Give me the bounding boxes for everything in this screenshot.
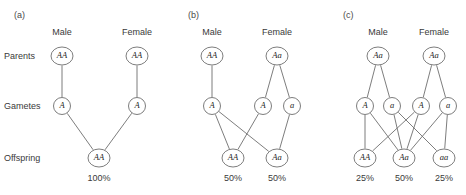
gamete-genotype-g-male-A: A (208, 100, 215, 110)
edge-g-male-A-to-o-AA (215, 114, 229, 149)
edge-p-female-to-g-female-A (265, 65, 274, 97)
sex-label-female: Female (419, 27, 449, 37)
offspring-genotype-o-AA: AA (93, 152, 105, 162)
percentage-label-pct-Aa: 50% (395, 173, 413, 183)
sex-label-female: Female (122, 27, 152, 37)
gamete-genotype-g-female-A: A (133, 100, 140, 110)
edge-g-female-a-to-o-aa (445, 115, 448, 149)
sex-label-male: Male (52, 27, 72, 37)
gamete-genotype-g-female-a: a (290, 100, 294, 110)
percentage-label-pct-aa: 25% (435, 173, 453, 183)
edge-g-female-a-to-o-Aa (411, 113, 443, 150)
edge-p-female-to-g-female-a (437, 65, 446, 97)
panel-b: (b)MaleFemaleAAAaAAaAAAa50%50% (188, 10, 301, 183)
sex-label-female: Female (262, 27, 292, 37)
edge-p-male-to-g-male-A (367, 65, 375, 97)
edge-p-male-to-g-male-a (381, 65, 390, 97)
percentage-label-pct-AA: 100% (87, 173, 110, 183)
panel-c: (c)MaleFemaleAaAaAaAaAAAaaa25%50%25% (343, 10, 457, 183)
edge-g-female-A-to-o-AA (105, 113, 132, 150)
gamete-genotype-g-female-A: A (259, 100, 266, 110)
parent-genotype-p-male: AA (56, 50, 68, 60)
gamete-genotype-g-male-A: A (361, 100, 368, 110)
edge-p-female-to-g-female-a (280, 65, 290, 97)
genetics-cross-figure: ParentsGametesOffspring(a)MaleFemaleAAAA… (0, 0, 466, 195)
parent-genotype-p-female: Aa (271, 50, 281, 60)
edge-g-female-a-to-o-Aa (280, 115, 290, 149)
edge-g-male-a-to-o-Aa (394, 115, 402, 149)
gamete-genotype-g-female-a: a (446, 100, 450, 110)
percentage-label-pct-AA: 25% (356, 173, 374, 183)
panel-label-a: (a) (14, 10, 25, 20)
edge-g-female-A-to-o-AA (238, 114, 259, 150)
figure-canvas: ParentsGametesOffspring(a)MaleFemaleAAAA… (0, 0, 466, 195)
gamete-genotype-g-male-a: a (390, 100, 394, 110)
row-label-parents: Parents (4, 51, 36, 61)
edge-g-male-A-to-o-Aa (219, 112, 269, 152)
percentage-label-pct-AA: 50% (224, 173, 242, 183)
gamete-genotype-g-male-A: A (58, 100, 65, 110)
row-label-gametes: Gametes (4, 101, 41, 111)
edge-g-male-A-to-o-AA (67, 113, 93, 149)
parent-genotype-p-female: Aa (428, 50, 438, 60)
offspring-genotype-o-AA: AA (359, 152, 371, 162)
edge-g-male-a-to-o-aa (398, 112, 436, 150)
parent-genotype-p-female: AA (131, 50, 143, 60)
gamete-genotype-g-female-A: A (417, 100, 424, 110)
offspring-genotype-o-aa: aa (440, 152, 449, 162)
edge-p-female-to-g-female-A (423, 65, 431, 97)
panel-label-c: (c) (343, 10, 354, 20)
sex-label-male: Male (368, 27, 388, 37)
offspring-genotype-o-Aa: Aa (398, 152, 408, 162)
percentage-label-pct-Aa: 50% (268, 173, 286, 183)
parent-genotype-p-male: Aa (372, 50, 382, 60)
sex-label-male: Male (202, 27, 222, 37)
row-label-offspring: Offspring (4, 153, 40, 163)
offspring-genotype-o-Aa: Aa (271, 152, 281, 162)
offspring-genotype-o-AA: AA (227, 152, 239, 162)
panel-label-b: (b) (188, 10, 199, 20)
parent-genotype-p-male: AA (206, 50, 218, 60)
